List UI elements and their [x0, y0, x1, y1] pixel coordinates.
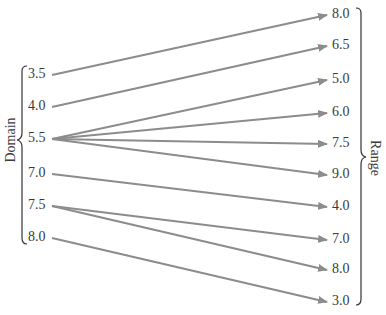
mapping-arrow	[52, 174, 327, 207]
domain-value: 8.0	[28, 230, 46, 244]
mapping-diagram: Domain Range 3.54.05.57.07.58.0 8.06.55.…	[0, 0, 386, 315]
arrows-layer	[0, 0, 386, 315]
range-axis-label: Range	[367, 133, 383, 183]
range-value: 9.0	[332, 167, 350, 181]
range-value: 7.0	[332, 232, 350, 246]
range-value: 5.0	[332, 72, 350, 86]
range-brace	[356, 8, 366, 305]
range-value: 3.0	[332, 294, 350, 308]
mapping-arrow	[52, 139, 327, 144]
mapping-arrow	[52, 113, 327, 139]
domain-value: 3.5	[28, 67, 46, 81]
domain-axis-label: Domain	[3, 115, 19, 165]
domain-value: 7.0	[28, 166, 46, 180]
mapping-arrow	[52, 206, 327, 270]
mapping-arrow	[52, 80, 327, 139]
range-value: 7.5	[332, 136, 350, 150]
range-value: 8.0	[332, 7, 350, 21]
range-value: 8.0	[332, 262, 350, 276]
range-value: 6.0	[332, 105, 350, 119]
domain-value: 4.0	[28, 99, 46, 113]
mapping-arrow	[52, 238, 327, 302]
mapping-arrow	[52, 15, 327, 75]
mapping-arrow	[52, 206, 327, 240]
domain-value: 7.5	[28, 198, 46, 212]
domain-value: 5.5	[28, 131, 46, 145]
mapping-arrow	[52, 46, 327, 107]
mapping-arrow	[52, 139, 327, 175]
range-value: 4.0	[332, 199, 350, 213]
range-value: 6.5	[332, 38, 350, 52]
